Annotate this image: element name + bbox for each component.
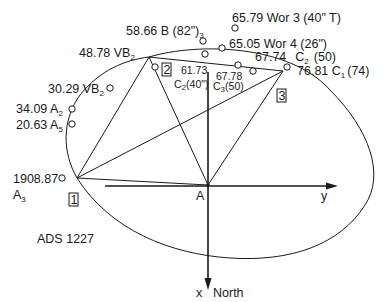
svg-text:1: 1 xyxy=(71,193,78,207)
obs-marker-6173 xyxy=(202,51,208,57)
label-5866: 58.66 B (82")3 xyxy=(126,24,204,40)
y-axis-label: y xyxy=(321,189,328,203)
obs-marker-6778 xyxy=(235,62,241,68)
label-1908: 1908.87 xyxy=(13,172,58,186)
north-label: North xyxy=(213,286,244,300)
station-1: 1 xyxy=(69,193,78,207)
label-2063: 20.63 A5 xyxy=(16,118,63,134)
label-6173: 61.73 xyxy=(181,64,207,76)
y-axis-arrow-icon xyxy=(326,183,338,190)
label-6173-observer: C2(40") xyxy=(174,78,208,92)
label-3409: 34.09 A2 xyxy=(16,102,63,118)
origin-label: A xyxy=(196,189,205,203)
label-6505: 65.05 Wor 4 (26") xyxy=(229,37,327,51)
label-3029: 30.29 VB2 xyxy=(48,82,104,98)
label-6778-observer: C3(50) xyxy=(213,80,244,94)
label-1908-observer: A3 xyxy=(13,188,26,204)
orbit-chords xyxy=(77,57,283,185)
station-3: 3 xyxy=(277,89,286,103)
svg-text:3: 3 xyxy=(279,89,286,103)
obs-marker-2063 xyxy=(69,121,75,127)
label-7681: 76.81 C1(74) xyxy=(297,64,369,80)
label-4878: 48.78 VB2 xyxy=(79,46,135,62)
obs-marker-7681 xyxy=(284,64,290,70)
obs-marker-6774 xyxy=(250,68,256,74)
binary-orbit-diagram: 1 2 3 1908.87 A3 20.63 A5 34.09 A2 30.29… xyxy=(0,0,388,302)
diagram-title: ADS 1227 xyxy=(37,232,94,246)
obs-marker-3409 xyxy=(69,106,75,112)
obs-marker-1908 xyxy=(59,175,65,181)
station-2: 2 xyxy=(162,63,171,77)
x-axis-label: x xyxy=(196,286,203,300)
obs-marker-6505 xyxy=(219,45,225,51)
x-axis-arrow-icon xyxy=(205,278,212,290)
label-6579: 65.79 Wor 3 (40" T) xyxy=(232,11,341,25)
obs-marker-3029 xyxy=(107,85,113,91)
svg-text:2: 2 xyxy=(164,63,171,77)
obs-marker-6579 xyxy=(232,25,238,31)
obs-marker-4878 xyxy=(152,64,158,70)
